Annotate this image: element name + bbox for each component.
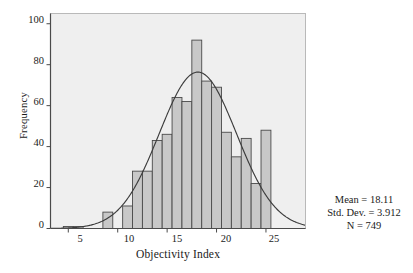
histogram-figure: Frequency 100 80 60 40 20 0 5 10 15 20 2… — [0, 0, 413, 273]
x-tick-label-15: 15 — [162, 233, 192, 244]
histogram-bar — [202, 81, 212, 228]
y-tick-label-100: 100 — [10, 14, 44, 25]
y-tick-label-60: 60 — [10, 96, 44, 107]
x-tick-label-5: 5 — [65, 233, 95, 244]
y-tick-label-80: 80 — [10, 55, 44, 66]
histogram-bar — [231, 157, 241, 229]
histogram-bar — [142, 171, 152, 228]
histogram-bar — [152, 140, 162, 228]
histogram-bar — [162, 134, 172, 228]
stat-std-dev: Std. Dev. = 3.912 — [318, 206, 410, 219]
histogram-bar — [133, 171, 143, 228]
x-tick-label-20: 20 — [211, 233, 241, 244]
y-tick-label-20: 20 — [10, 178, 44, 189]
x-axis-title: Objectivity Index — [50, 248, 306, 260]
histogram-bar — [172, 97, 182, 228]
histogram-bar — [212, 87, 222, 228]
statistics-annotation: Mean = 18.11 Std. Dev. = 3.912 N = 749 — [318, 193, 410, 232]
histogram-bar — [251, 183, 261, 228]
histogram-bar — [123, 206, 133, 229]
histogram-bar — [182, 102, 192, 229]
plot-area — [0, 0, 413, 273]
y-tick-label-0: 0 — [10, 219, 44, 230]
x-tick-label-10: 10 — [114, 233, 144, 244]
histogram-bar — [261, 130, 271, 228]
histogram-bar — [192, 40, 202, 228]
stat-n: N = 749 — [318, 219, 410, 232]
stat-mean: Mean = 18.11 — [318, 193, 410, 206]
x-tick-label-25: 25 — [259, 233, 289, 244]
y-tick-label-40: 40 — [10, 137, 44, 148]
histogram-bar — [221, 132, 231, 228]
histogram-bar — [241, 138, 251, 228]
